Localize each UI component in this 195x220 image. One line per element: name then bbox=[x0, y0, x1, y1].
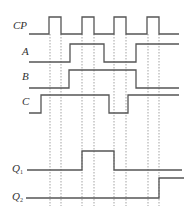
label-c: C bbox=[22, 95, 30, 107]
waveform-cp bbox=[29, 17, 179, 34]
timing-diagram: CPABCQ1Q2 bbox=[0, 0, 195, 220]
waveform-a bbox=[29, 44, 179, 62]
label-subscript-q2: 2 bbox=[20, 197, 23, 203]
waveform-b bbox=[29, 70, 179, 88]
label-subscript-q1: 1 bbox=[20, 169, 23, 175]
signal-labels: CPABCQ1Q2 bbox=[12, 19, 30, 203]
label-q2: Q2 bbox=[12, 190, 23, 203]
label-cp: CP bbox=[13, 19, 27, 31]
label-a: A bbox=[21, 45, 29, 57]
waveform-c bbox=[29, 95, 179, 113]
label-q1: Q1 bbox=[12, 162, 23, 175]
label-b: B bbox=[22, 70, 29, 82]
